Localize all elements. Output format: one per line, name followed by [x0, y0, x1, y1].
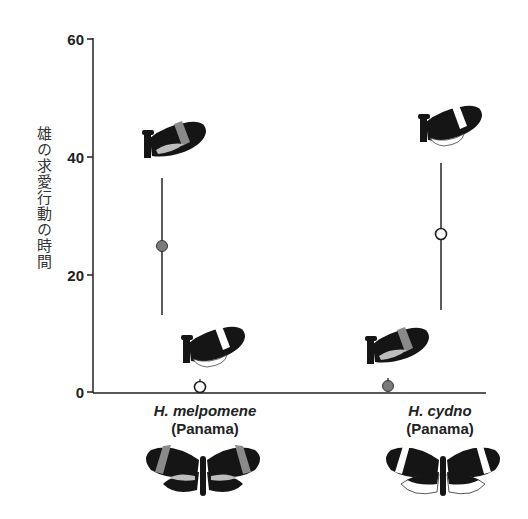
- group-cydno: [365, 105, 482, 392]
- butterfly-perched-melpomene-icon: [365, 327, 429, 364]
- category-label-melpomene: H. melpomene (Panama): [130, 402, 280, 438]
- marker-cydno-open: [436, 229, 447, 240]
- butterfly-perched-cydno-icon: [418, 105, 482, 146]
- locality: (Panama): [380, 420, 500, 438]
- marker-melpomene-open: [195, 382, 206, 393]
- chart-canvas: 60 40 20 0: [0, 0, 528, 519]
- butterfly-perched-cydno-icon: [181, 326, 245, 367]
- group-melpomene: [142, 121, 245, 393]
- butterfly-perched-melpomene-icon: [142, 121, 206, 158]
- category-label-cydno: H. cydno (Panama): [380, 402, 500, 438]
- butterfly-spread-melpomene-icon: [146, 445, 260, 496]
- y-tick-60: 60: [67, 31, 84, 48]
- y-tick-0: 0: [76, 384, 84, 401]
- y-tick-20: 20: [67, 267, 84, 284]
- y-axis-label: 雄の求愛行動の時間: [32, 126, 52, 270]
- species-name: H. melpomene: [130, 402, 280, 420]
- y-tick-40: 40: [67, 149, 84, 166]
- marker-melpomene-filled: [157, 241, 168, 252]
- y-axis: 60 40 20 0: [67, 31, 93, 401]
- species-name: H. cydno: [380, 402, 500, 420]
- butterfly-spread-cydno-icon: [386, 445, 500, 496]
- marker-cydno-filled: [383, 381, 394, 392]
- locality: (Panama): [130, 420, 280, 438]
